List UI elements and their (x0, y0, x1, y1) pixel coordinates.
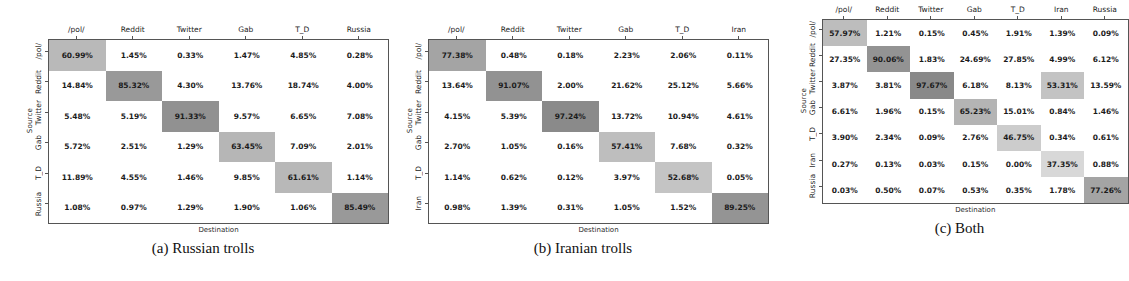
y-tick-label: Russia (808, 173, 819, 199)
y-tick-labels: /pol/RedditTwitterGabT_DIranRussia (808, 2, 819, 214)
plot-area: Source/pol/RedditTwitterGabT_DRussia/pol… (26, 22, 380, 234)
y-axis-label-text: Source (800, 88, 808, 113)
y-tick-label: Iran (808, 147, 819, 173)
y-tick-spacer (34, 22, 45, 36)
y-tick-label-text: Twitter (414, 100, 423, 125)
matrix-cell: 1.46% (1084, 99, 1128, 125)
matrix-cell: 13.76% (219, 71, 276, 102)
x-tick-label: Gab (598, 25, 655, 36)
y-tick-label-text: Twitter (34, 100, 43, 125)
matrix-cell: 77.38% (429, 40, 486, 71)
matrix-cell: 0.15% (954, 151, 998, 177)
matrix-cell: 13.72% (599, 101, 656, 132)
y-tick-label-text: Gab (808, 100, 817, 115)
matrix-cell: 0.62% (486, 162, 543, 193)
x-tick-label: Reddit (105, 25, 162, 36)
matrix-cell: 4.85% (275, 40, 332, 71)
matrix-column: /pol/RedditTwitterGabT_DIranRussia57.97%… (822, 2, 1129, 214)
matrix-cell: 90.06% (867, 46, 911, 72)
matrix-cell: 37.35% (1041, 151, 1085, 177)
x-tick-label: T_D (274, 25, 331, 36)
y-tick-label: /pol/ (414, 36, 425, 67)
matrix-cell: 2.23% (599, 40, 656, 71)
matrix-row: 2.70%1.05%0.16%57.41%7.68%0.32% (429, 132, 768, 163)
matrix-cell: 13.59% (1084, 72, 1128, 98)
panel-caption: (b) Iranian trolls (406, 240, 760, 257)
matrix-row: 0.03%0.50%0.07%0.53%0.35%1.78%77.26% (823, 177, 1128, 203)
matrix-row: 6.61%1.96%0.15%65.23%15.01%0.84%1.46% (823, 99, 1128, 125)
matrix-cell: 1.46% (162, 162, 219, 193)
matrix-row: 5.72%2.51%1.29%63.45%7.09%2.01% (49, 132, 388, 163)
matrix-cell: 1.39% (486, 193, 543, 224)
x-tick-label: Russia (331, 25, 388, 36)
heatmap-matrix: 57.97%1.21%0.15%0.45%1.91%1.39%0.09%27.3… (822, 19, 1129, 204)
matrix-cell: 1.91% (997, 20, 1041, 46)
matrix-cell: 1.05% (599, 193, 656, 224)
matrix-cell: 3.97% (599, 162, 656, 193)
matrix-cell: 9.57% (219, 101, 276, 132)
y-tick-label: /pol/ (808, 16, 819, 42)
matrix-cell: 2.06% (655, 40, 712, 71)
x-tick-label: Iran (711, 25, 768, 36)
matrix-row: 60.99%1.45%0.33%1.47%4.85%0.28% (49, 40, 388, 71)
matrix-cell: 0.45% (954, 20, 998, 46)
matrix-cell: 4.30% (162, 71, 219, 102)
matrix-row: 1.08%0.97%1.29%1.90%1.06%85.49% (49, 193, 388, 224)
plot-area: Source/pol/RedditTwitterGabT_DIran/pol/R… (406, 22, 760, 234)
matrix-row: 1.14%0.62%0.12%3.97%52.68%0.05% (429, 162, 768, 193)
matrix-cell: 0.98% (429, 193, 486, 224)
y-tick-label: Russia (34, 189, 45, 220)
matrix-cell: 27.35% (823, 46, 867, 72)
x-tick-label: Reddit (866, 5, 910, 16)
y-tick-label: Reddit (414, 67, 425, 98)
y-tick-label-text: /pol/ (808, 21, 817, 38)
y-tick-label: Reddit (34, 67, 45, 98)
matrix-cell: 0.16% (542, 132, 599, 163)
matrix-row: 0.98%1.39%0.31%1.05%1.52%89.25% (429, 193, 768, 224)
panel-caption: (c) Both (800, 220, 1119, 237)
matrix-cell: 91.33% (162, 101, 219, 132)
matrix-cell: 52.68% (655, 162, 712, 193)
x-tick-labels: /pol/RedditTwitterGabT_DRussia (48, 22, 389, 36)
matrix-cell: 9.85% (219, 162, 276, 193)
matrix-row: 0.27%0.13%0.03%0.15%0.00%37.35%0.88% (823, 151, 1128, 177)
y-tick-label-text: T_D (808, 127, 817, 141)
x-tick-label: T_D (654, 25, 711, 36)
matrix-cell: 0.27% (823, 151, 867, 177)
y-tick-label: T_D (414, 158, 425, 189)
matrix-cell: 77.26% (1084, 177, 1128, 203)
y-tick-label-text: Reddit (808, 43, 817, 67)
y-tick-label: Reddit (808, 42, 819, 68)
matrix-row: 11.89%4.55%1.46%9.85%61.61%1.14% (49, 162, 388, 193)
y-tick-label: Twitter (414, 97, 425, 128)
matrix-cell: 11.89% (49, 162, 106, 193)
y-axis-label: Source (26, 22, 34, 219)
matrix-cell: 15.01% (997, 99, 1041, 125)
matrix-cell: 3.81% (867, 72, 911, 98)
y-tick-label: Twitter (34, 97, 45, 128)
matrix-cell: 2.34% (867, 125, 911, 151)
matrix-cell: 6.61% (823, 99, 867, 125)
matrix-cell: 0.03% (823, 177, 867, 203)
matrix-cell: 0.97% (106, 193, 163, 224)
y-axis-label: Source (800, 2, 808, 199)
y-axis-label: Source (406, 22, 414, 219)
x-axis-label: Destination (428, 224, 769, 234)
matrix-cell: 0.61% (1084, 125, 1128, 151)
matrix-cell: 0.31% (542, 193, 599, 224)
y-tick-label-text: T_D (34, 166, 43, 180)
matrix-cell: 18.74% (275, 71, 332, 102)
matrix-cell: 4.55% (106, 162, 163, 193)
y-tick-label-text: Iran (808, 153, 817, 168)
matrix-cell: 14.84% (49, 71, 106, 102)
matrix-cell: 53.31% (1041, 72, 1085, 98)
y-tick-label: Iran (414, 189, 425, 220)
matrix-cell: 6.18% (954, 72, 998, 98)
y-tick-label: T_D (808, 121, 819, 147)
matrix-cell: 60.99% (49, 40, 106, 71)
matrix-column: /pol/RedditTwitterGabT_DRussia60.99%1.45… (48, 22, 389, 234)
confusion-matrix-panel-c: Source/pol/RedditTwitterGabT_DIranRussia… (760, 0, 1119, 281)
x-tick-labels: /pol/RedditTwitterGabT_DIran (428, 22, 769, 36)
matrix-cell: 97.67% (910, 72, 954, 98)
matrix-cell: 4.15% (429, 101, 486, 132)
